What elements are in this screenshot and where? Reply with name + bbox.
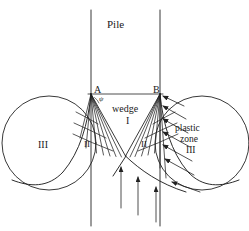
slip-tangent-short (113, 156, 126, 176)
pile-slip-line-figure: Pile A B ψ wedge I II II III plastic zon… (0, 0, 249, 231)
label-wedge: wedge (112, 104, 138, 115)
label-zone-word: zone (180, 135, 198, 145)
left-lower-slip-curve (12, 94, 91, 185)
right-plastic-zone-circle (155, 96, 249, 190)
load-arrow (172, 182, 200, 192)
left-plastic-zone-circle (2, 96, 96, 190)
right-fan-ray (148, 94, 160, 155)
label-left-plastic-zone-numeral: III (38, 140, 48, 151)
figure-drawing-canvas (0, 0, 249, 231)
label-pile: Pile (107, 19, 124, 31)
left-fan-arc (73, 134, 113, 151)
label-fan-right-numeral: II (141, 140, 147, 149)
left-fan-ray (80, 94, 91, 138)
label-angle-psi: ψ (99, 96, 103, 103)
label-right-plastic-zone-numeral: III (186, 146, 196, 156)
slip-curve-crossing-left (126, 156, 187, 192)
bottom-vertical-arrows (121, 167, 156, 222)
load-arrow (165, 159, 194, 175)
label-point-b: B (153, 85, 160, 96)
label-wedge-numeral: I (126, 116, 129, 127)
label-point-a: A (94, 85, 101, 96)
right-fan-arc (145, 123, 177, 138)
label-fan-left-numeral: II (84, 140, 90, 149)
label-plastic-word: plastic (175, 124, 200, 134)
right-lower-slip-curve (160, 94, 239, 185)
left-fan-arc (74, 123, 106, 138)
